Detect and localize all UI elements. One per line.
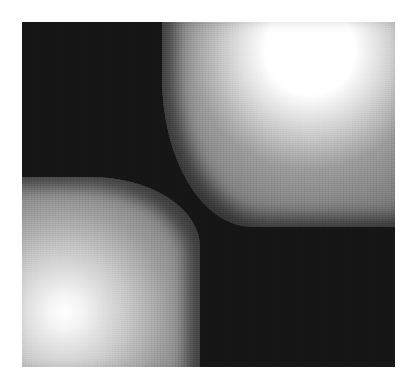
- upper-right-bright-region: [162, 22, 395, 227]
- lower-left-bright-region: [22, 177, 200, 367]
- intensity-field-image: [22, 22, 395, 367]
